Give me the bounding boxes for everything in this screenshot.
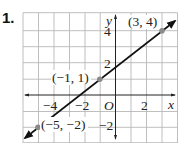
point-label: (−5, −2): [41, 117, 85, 132]
data-point: [35, 125, 41, 131]
point-label: (3, 4): [128, 14, 157, 29]
x-tick-label: −2: [75, 98, 89, 113]
x-axis-label: x: [167, 97, 174, 112]
data-point: [159, 28, 165, 34]
data-point: [97, 76, 103, 82]
x-tick-label: 2: [141, 98, 148, 113]
y-tick-label: 2: [104, 56, 111, 71]
x-tick-label: −4: [43, 98, 58, 113]
coordinate-graph: y x O −4 −2 2 4 2 −2 (−5, −2) (−1, 1) (3…: [0, 0, 185, 143]
y-tick-label: 4: [104, 24, 111, 39]
point-label: (−1, 1): [52, 70, 89, 85]
y-tick-label: −2: [99, 118, 113, 133]
origin-label: O: [104, 98, 114, 113]
